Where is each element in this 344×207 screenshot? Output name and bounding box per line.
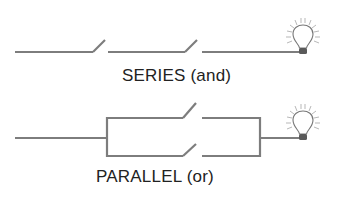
switch-2 bbox=[185, 40, 197, 52]
lightbulb-icon bbox=[286, 104, 320, 140]
parallel-label: PARALLEL (or) bbox=[96, 167, 214, 187]
switch-1 bbox=[93, 40, 105, 52]
series-circuit bbox=[15, 18, 320, 54]
lightbulb-icon bbox=[286, 18, 320, 54]
series-label: SERIES (and) bbox=[122, 66, 231, 86]
switch-bottom bbox=[183, 144, 196, 156]
switch-top bbox=[183, 103, 196, 118]
parallel-circuit bbox=[15, 103, 320, 157]
